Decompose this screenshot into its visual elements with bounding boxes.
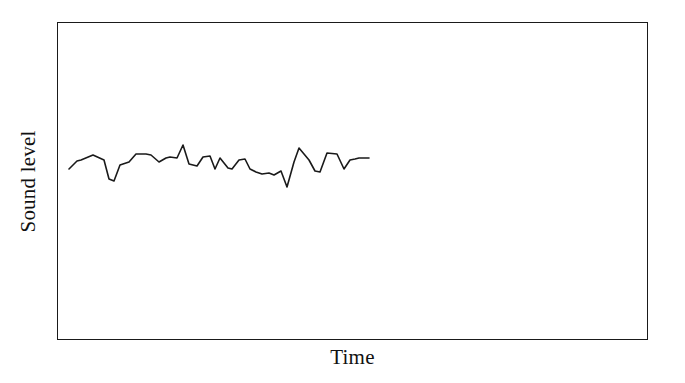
- sound-level-line-series: [69, 145, 369, 187]
- sound-level-series-svg: [58, 23, 649, 341]
- y-axis-label: Sound level: [18, 130, 39, 232]
- x-axis-label: Time: [330, 344, 374, 370]
- figure-sound-level-over-time: Sound level Time: [0, 0, 685, 383]
- plot-area: [57, 22, 648, 340]
- y-axis-label-container: Sound level: [0, 22, 57, 340]
- x-axis-label-container: Time: [57, 344, 648, 383]
